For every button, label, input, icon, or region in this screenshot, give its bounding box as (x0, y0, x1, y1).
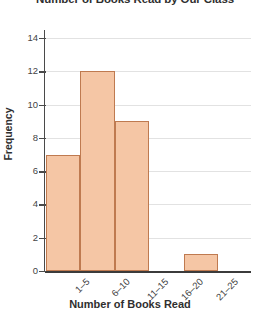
histogram-chart: Number of Books Read by Our Class Freque… (0, 0, 260, 316)
bar[interactable] (184, 254, 218, 271)
x-axis-tick-label: 6–10 (109, 276, 132, 299)
y-axis-tick-label: 0 (10, 266, 38, 275)
y-axis-tick-mark (39, 271, 46, 272)
y-axis-tick-labels: 02468101214 (6, 0, 38, 316)
y-axis-tick-label: 2 (10, 233, 38, 242)
chart-title: Number of Books Read by Our Class (36, 0, 260, 6)
y-axis-tick-label: 14 (10, 33, 38, 42)
y-axis-tick-label: 10 (10, 100, 38, 109)
gridline (45, 105, 251, 106)
x-axis-line (45, 271, 251, 273)
y-axis-tick-mark (39, 71, 46, 72)
gridline (45, 38, 251, 39)
y-axis-tick-label: 6 (10, 166, 38, 175)
bar[interactable] (115, 121, 149, 271)
y-axis-tick-mark (39, 171, 46, 172)
y-axis-tick-mark (39, 204, 46, 205)
y-axis-tick-label: 12 (10, 66, 38, 75)
y-axis-tick-mark (39, 138, 46, 139)
gridline (45, 71, 251, 72)
y-axis-tick-label: 4 (10, 199, 38, 208)
y-axis-tick-mark (39, 105, 46, 106)
x-axis-tick-label: 1–5 (73, 276, 92, 295)
y-axis-line (44, 30, 45, 272)
x-axis-title: Number of Books Read (0, 298, 260, 310)
y-axis-tick-mark (39, 38, 46, 39)
bar[interactable] (46, 155, 80, 272)
y-axis-tick-mark (39, 238, 46, 239)
y-axis-tick-label: 8 (10, 133, 38, 142)
plot-area (45, 33, 251, 271)
bar[interactable] (80, 71, 114, 271)
